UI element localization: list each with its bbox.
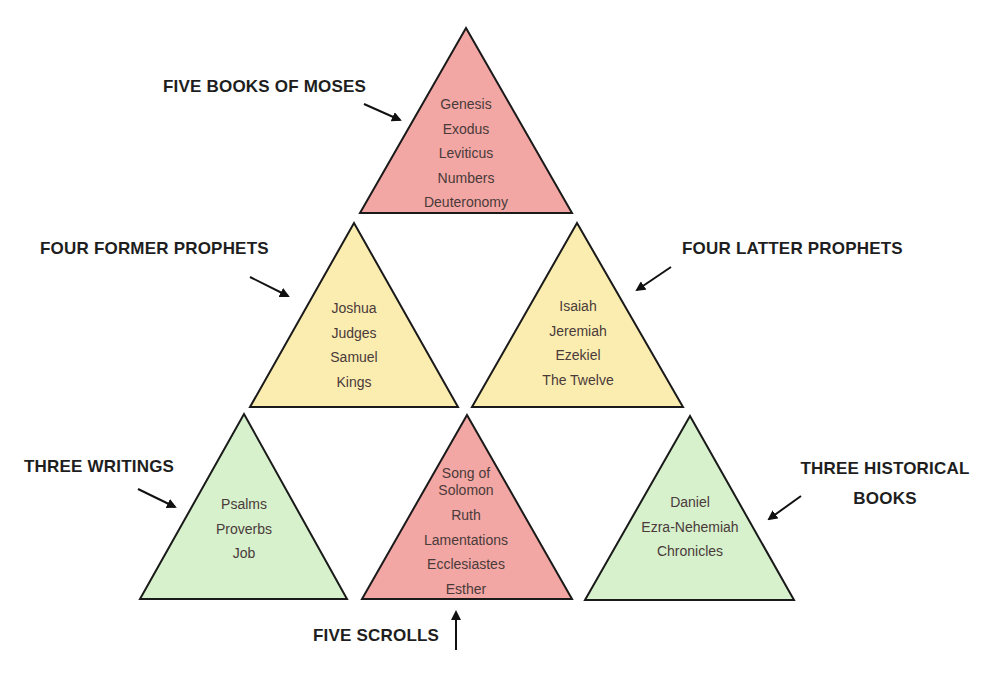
- book-name: Samuel: [330, 345, 377, 370]
- book-name: Song of: [424, 465, 508, 482]
- tanakh-pyramid-diagram: Genesis Exodus Leviticus Numbers Deutero…: [0, 0, 1003, 674]
- book-name: Solomon: [424, 482, 508, 499]
- label-five-books-of-moses: FIVE BOOKS OF MOSES: [163, 72, 366, 102]
- label-five-scrolls: FIVE SCROLLS: [313, 621, 439, 651]
- label-three-writings: THREE WRITINGS: [24, 452, 174, 482]
- arrow-icon: [364, 104, 400, 120]
- arrow-icon: [637, 267, 671, 290]
- moses-book-list: Genesis Exodus Leviticus Numbers Deutero…: [424, 92, 508, 215]
- label-three-historical-books: THREE HISTORICAL BOOKS: [795, 454, 975, 514]
- book-name: Psalms: [216, 492, 272, 517]
- scrolls-book-list: Song of Solomon Ruth Lamentations Eccles…: [424, 465, 508, 601]
- book-name: Chronicles: [641, 539, 738, 564]
- book-name: Job: [216, 541, 272, 566]
- book-name: Ecclesiastes: [424, 552, 508, 577]
- book-name: Judges: [330, 321, 377, 346]
- book-name: Exodus: [424, 117, 508, 142]
- latter-prophets-book-list: Isaiah Jeremiah Ezekiel The Twelve: [542, 294, 613, 392]
- label-line: THREE HISTORICAL: [795, 454, 975, 484]
- label-four-latter-prophets: FOUR LATTER PROPHETS: [682, 234, 903, 264]
- book-name: Isaiah: [542, 294, 613, 319]
- historical-book-list: Daniel Ezra-Nehemiah Chronicles: [641, 490, 738, 564]
- book-name: Jeremiah: [542, 319, 613, 344]
- book-name: Esther: [424, 577, 508, 602]
- book-name: Genesis: [424, 92, 508, 117]
- book-name: Numbers: [424, 166, 508, 191]
- book-name: Joshua: [330, 296, 377, 321]
- label-line: BOOKS: [795, 484, 975, 514]
- label-four-former-prophets: FOUR FORMER PROPHETS: [40, 234, 269, 264]
- book-name: Ezra-Nehemiah: [641, 515, 738, 540]
- book-name: Daniel: [641, 490, 738, 515]
- book-name: Proverbs: [216, 517, 272, 542]
- book-name: Ruth: [424, 503, 508, 528]
- writings-book-list: Psalms Proverbs Job: [216, 492, 272, 566]
- book-name: Kings: [330, 370, 377, 395]
- arrow-icon: [250, 277, 288, 296]
- arrow-icon: [138, 489, 175, 507]
- book-name: Ezekiel: [542, 343, 613, 368]
- book-name: Leviticus: [424, 141, 508, 166]
- book-name: Deuteronomy: [424, 190, 508, 215]
- book-name: Lamentations: [424, 528, 508, 553]
- former-prophets-book-list: Joshua Judges Samuel Kings: [330, 296, 377, 394]
- book-name: The Twelve: [542, 368, 613, 393]
